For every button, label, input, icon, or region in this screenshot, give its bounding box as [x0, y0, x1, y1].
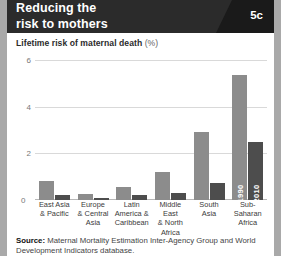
chart-bar-groups: 19902010 — [35, 60, 267, 200]
page-title: Reducing the risk to mothers — [16, 1, 206, 32]
x-axis-label-line: East Asia — [36, 200, 73, 209]
bar-group — [35, 60, 74, 200]
x-axis-label: Sub-SaharanAfrica — [228, 200, 267, 237]
chart-subtitle: Lifetime risk of maternal death (%) — [16, 38, 158, 48]
x-axis-label-line: Latin — [113, 200, 150, 209]
bar-2010[interactable] — [210, 183, 225, 201]
page-title-line-1: Reducing the — [16, 1, 206, 17]
x-axis-label: LatinAmerica &Caribbean — [112, 200, 151, 237]
bar-group — [151, 60, 190, 200]
chart-plot-area: 2460 19902010 — [7, 52, 274, 212]
x-axis-label: SouthAsia — [190, 200, 229, 237]
bar-group: 19902010 — [228, 60, 267, 200]
x-axis-label-line: Sub-Saharan — [229, 200, 266, 218]
x-axis-label-line: Asia — [75, 218, 112, 227]
bar-2010[interactable]: 2010 — [248, 142, 263, 200]
chart-subtitle-text: Lifetime risk of maternal death — [16, 38, 142, 48]
bar-1990[interactable] — [116, 187, 131, 200]
x-axis-label: Middle East& NorthAfrica — [151, 200, 190, 237]
x-axis-label-line: Caribbean — [113, 218, 150, 227]
x-axis-label-line: Asia — [191, 209, 228, 218]
x-axis-label-line: Africa — [229, 218, 266, 227]
x-axis-label-line: & North — [152, 218, 189, 227]
x-axis-label-line: Europe — [75, 200, 112, 209]
x-axis-label-line: South — [191, 200, 228, 209]
chart-number-badge: 5c — [250, 9, 263, 22]
bar-1990[interactable] — [39, 181, 54, 200]
y-axis-tick-label: 2 — [27, 149, 31, 158]
bar-group — [74, 60, 113, 200]
x-axis-label: East Asia& Pacific — [35, 200, 74, 237]
infographic-card: Reducing the risk to mothers 5c Lifetime… — [0, 0, 281, 256]
bar-1990[interactable] — [155, 172, 170, 200]
page-title-line-2: risk to mothers — [16, 17, 206, 33]
chart-subtitle-unit: (%) — [145, 38, 159, 48]
y-axis-tick-label: 6 — [27, 56, 31, 65]
bar-1990[interactable]: 1990 — [232, 75, 247, 200]
y-axis-tick-label: 4 — [27, 102, 31, 111]
x-axis-label-line: Middle East — [152, 200, 189, 218]
x-axis-label-line: & Central — [75, 209, 112, 218]
source-label: Source: — [16, 236, 45, 245]
x-axis-label-line: & Pacific — [36, 209, 73, 218]
chart-x-axis-labels: East Asia& PacificEurope& CentralAsiaLat… — [35, 200, 267, 237]
bar-group — [190, 60, 229, 200]
y-axis-tick-label: 0 — [21, 196, 25, 205]
chart-canvas: 2460 19902010 — [35, 60, 267, 200]
card-header: Reducing the risk to mothers 5c — [7, 0, 274, 33]
bar-group — [112, 60, 151, 200]
source-note: Source: Maternal Mortality Estimation In… — [16, 236, 266, 256]
source-text: Maternal Mortality Estimation Inter-Agen… — [16, 236, 256, 255]
x-axis-label: Europe& CentralAsia — [74, 200, 113, 237]
bar-1990[interactable] — [194, 132, 209, 200]
x-axis-label-line: America & — [113, 209, 150, 218]
header-corner-accent — [216, 0, 274, 33]
